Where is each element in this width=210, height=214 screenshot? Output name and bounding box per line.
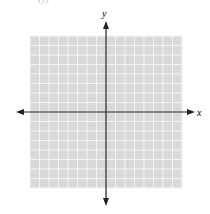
- x-axis-left-arrow-icon: [16, 109, 24, 115]
- y-axis-down-arrow-icon: [103, 198, 109, 206]
- x-axis-label: x: [196, 107, 202, 118]
- y-axis-label: y: [101, 8, 107, 19]
- coordinate-plane: x y: [0, 0, 210, 214]
- x-axis-right-arrow-icon: [187, 109, 195, 115]
- y-axis-up-arrow-icon: [103, 21, 109, 29]
